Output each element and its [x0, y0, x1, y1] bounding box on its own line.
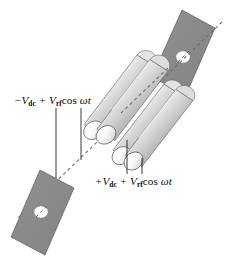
v-rf-symbol: V	[49, 94, 56, 106]
plus-operator: +	[120, 175, 127, 187]
dc-subscript: dc	[109, 180, 116, 189]
quadrupole-diagram-figure: −Vdc + Vrfcos ωt +Vdc + Vrfcos ωt	[0, 0, 226, 267]
cos-function: cos	[143, 175, 158, 187]
diagram-canvas	[0, 0, 226, 267]
omega-symbol: ω	[80, 94, 88, 106]
cos-function: cos	[62, 94, 77, 106]
exit-aperture-plate	[152, 10, 215, 95]
v-rf-symbol: V	[130, 175, 137, 187]
dc-subscript: dc	[28, 99, 35, 108]
negative-rod-pair-voltage-label: −Vdc + Vrfcos ωt	[14, 95, 91, 107]
time-symbol: t	[88, 94, 91, 106]
positive-rod-pair-voltage-label: +Vdc + Vrfcos ωt	[95, 176, 172, 188]
plus-operator: +	[39, 94, 46, 106]
entrance-aperture-plate	[11, 170, 74, 255]
omega-symbol: ω	[161, 175, 169, 187]
time-symbol: t	[169, 175, 172, 187]
